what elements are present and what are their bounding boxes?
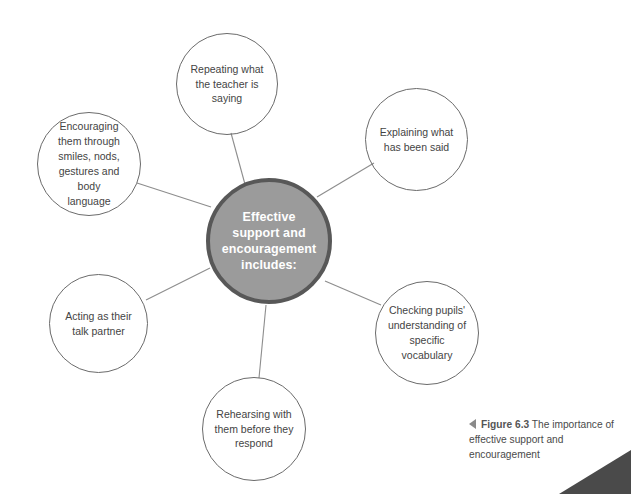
bubble-rehearsing-with-them-before-they-respond: Rehearsing with them before they respond xyxy=(202,377,306,481)
bubble-label: Acting as their talk partner xyxy=(56,309,141,339)
central-hub-label: Effective support and encouragement incl… xyxy=(216,209,322,273)
figure-diagram: Effective support and encouragement incl… xyxy=(0,0,631,494)
corner-wedge-shape xyxy=(559,450,631,494)
bubble-repeating-what-the-teacher-is-saying: Repeating what the teacher is saying xyxy=(176,33,278,135)
bubble-explaining-what-has-been-said: Explaining what has been said xyxy=(365,88,468,191)
bubble-label: Checking pupils' understanding of specif… xyxy=(376,303,478,363)
bubble-label: Explaining what has been said xyxy=(371,125,463,155)
connector-line-3 xyxy=(259,305,266,378)
bubble-encouraging-them-through-smiles-nods-gestures-and-body-language: Encouraging them through smiles, nods, g… xyxy=(37,112,141,216)
connector-line-5 xyxy=(137,183,211,207)
bubble-label: Rehearsing with them before they respond xyxy=(206,407,303,452)
connector-line-2 xyxy=(325,281,381,305)
connector-line-0 xyxy=(231,133,246,188)
bubble-acting-as-their-talk-partner: Acting as their talk partner xyxy=(49,274,148,373)
bubble-checking-pupils-understanding-of-specific-vocabulary: Checking pupils' understanding of specif… xyxy=(375,281,479,385)
bubble-label: Repeating what the teacher is saying xyxy=(182,62,273,107)
left-triangle-icon xyxy=(469,419,476,429)
connector-line-4 xyxy=(146,268,210,300)
bubble-label: Encouraging them through smiles, nods, g… xyxy=(38,119,140,208)
figure-number: Figure 6.3 xyxy=(481,419,529,430)
central-hub: Effective support and encouragement incl… xyxy=(206,178,332,304)
connector-line-1 xyxy=(317,163,374,197)
